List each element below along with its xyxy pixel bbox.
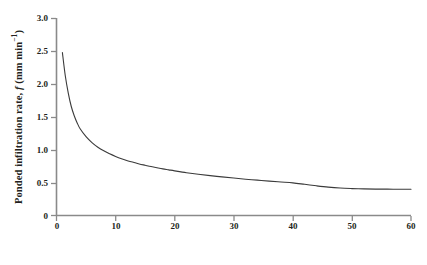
x-tick-label: 10 (101, 221, 131, 231)
y-axis-ticks (51, 19, 56, 216)
y-tick-label: 2.5 (22, 46, 48, 56)
x-axis-tick-labels: 0 10 20 30 40 50 60 (0, 221, 427, 235)
y-tick-label: 0.5 (22, 178, 48, 188)
data-series-line (62, 53, 411, 190)
y-axis-title-exponent: −1 (10, 34, 19, 42)
x-tick-label: 60 (396, 221, 426, 231)
x-tick-label: 0 (42, 221, 72, 231)
x-tick-label: 50 (337, 221, 367, 231)
y-tick-label: 3.0 (22, 13, 48, 23)
figure-container: Ponded infiltration rate, f (mm min−1) 3… (0, 0, 427, 265)
x-tick-label: 20 (160, 221, 190, 231)
x-tick-label: 30 (219, 221, 249, 231)
x-tick-label: 40 (278, 221, 308, 231)
y-tick-label: 1.0 (22, 145, 48, 155)
y-tick-label: 2.0 (22, 79, 48, 89)
y-tick-label: 1.5 (22, 112, 48, 122)
y-tick-label: 0 (22, 211, 48, 221)
